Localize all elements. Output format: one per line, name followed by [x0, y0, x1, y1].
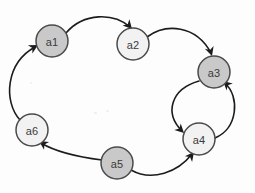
- node-circle[interactable]: [101, 147, 133, 179]
- graph-diagram: a1a2a3a4a5a6: [0, 0, 255, 193]
- edge-line: [147, 29, 211, 53]
- edge-line: [215, 83, 235, 138]
- edge-a5-a6: [36, 137, 102, 160]
- node-circle[interactable]: [36, 25, 68, 57]
- edge-a2-a3: [147, 29, 216, 58]
- graph-node-a5[interactable]: a5: [101, 147, 133, 179]
- graph-node-a1[interactable]: a1: [36, 25, 68, 57]
- graph-node-a2[interactable]: a2: [117, 28, 149, 60]
- edge-line: [41, 143, 102, 160]
- node-circle[interactable]: [117, 28, 149, 60]
- edge-line: [10, 47, 35, 120]
- graph-node-a4[interactable]: a4: [183, 123, 215, 155]
- graph-node-a6[interactable]: a6: [16, 114, 48, 146]
- node-circle[interactable]: [198, 56, 230, 88]
- edge-a5-a4: [131, 149, 198, 175]
- node-circle[interactable]: [16, 114, 48, 146]
- graph-node-a3[interactable]: a3: [198, 56, 230, 88]
- edge-a6-a1: [10, 41, 41, 120]
- node-circle[interactable]: [183, 123, 215, 155]
- edge-line: [66, 17, 130, 33]
- graph-canvas: a1a2a3a4a5a6: [0, 0, 255, 193]
- nodes-layer: a1a2a3a4a5a6: [16, 25, 230, 179]
- edge-line: [131, 154, 192, 175]
